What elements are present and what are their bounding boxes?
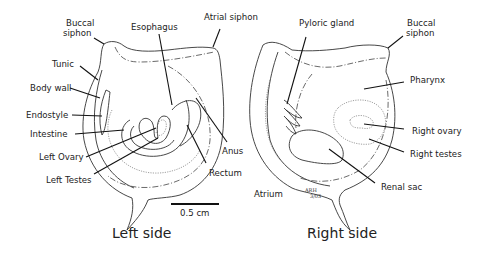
- right-pyloric-gland: [284, 100, 302, 134]
- label-right-testes: Right testes: [410, 149, 462, 159]
- label-atrium: Atrium: [254, 189, 283, 199]
- label-pharynx: Pharynx: [410, 75, 445, 85]
- leader-pharynx: [364, 82, 404, 89]
- leader-right-ovary: [364, 124, 404, 129]
- leader-buccal-siphon-left: [94, 38, 104, 44]
- label-tunic: Tunic: [51, 59, 74, 69]
- caption-left-side: Left side: [112, 225, 171, 241]
- leader-esophagus: [159, 34, 172, 105]
- artist-signature-2: 3/03: [310, 193, 321, 199]
- leader-renal-sac: [329, 149, 375, 183]
- leader-intestine: [75, 130, 124, 134]
- leader-pyloric-gland: [287, 37, 306, 104]
- label-renal-sac: Renal sac: [381, 182, 422, 192]
- label-anus: Anus: [222, 146, 244, 156]
- label-intestine: Intestine: [30, 129, 68, 139]
- label-pyloric-gland: Pyloric gland: [299, 18, 354, 28]
- label-buccal-siphon-left-2: siphon: [63, 28, 91, 38]
- left-tunic-outline: [83, 42, 224, 230]
- leader-body-wall: [70, 88, 100, 98]
- right-testes-dotted: [334, 100, 386, 144]
- left-rectum: [172, 101, 201, 146]
- caption-right-side: Right side: [307, 225, 377, 241]
- label-atrial-siphon: Atrial siphon: [204, 12, 258, 22]
- label-esophagus: Esophagus: [131, 22, 178, 32]
- label-endostyle: Endostyle: [26, 110, 68, 120]
- right-renal-sac: [289, 130, 343, 164]
- label-buccal-siphon-right-1: Buccal: [407, 18, 435, 28]
- leader-atrial-siphon: [213, 29, 220, 47]
- label-left-testes: Left Testes: [46, 175, 92, 185]
- label-right-ovary: Right ovary: [412, 126, 462, 136]
- label-left-ovary: Left Ovary: [39, 152, 84, 162]
- label-buccal-siphon-right-2: siphon: [406, 28, 434, 38]
- leader-tunic: [80, 66, 98, 80]
- leader-right-testes: [369, 139, 404, 152]
- label-buccal-siphon-left-1: Buccal: [66, 18, 94, 28]
- right-organism-drawing: [250, 42, 395, 230]
- left-organism-drawing: [83, 42, 224, 230]
- tunicate-anatomy-diagram: Buccal siphon Esophagus Tunic Body wall …: [0, 0, 485, 253]
- right-tunic-outline: [250, 42, 395, 230]
- left-endostyle: [100, 90, 110, 135]
- scale-bar-label: 0.5 cm: [180, 208, 210, 218]
- right-pharynx-dashed: [296, 74, 312, 128]
- label-body-wall: Body wall: [30, 83, 72, 93]
- leader-buccal-siphon-right: [388, 36, 403, 48]
- right-body-wall: [267, 52, 330, 186]
- leader-endostyle: [72, 115, 102, 116]
- right-ovary-dotted: [350, 116, 373, 129]
- label-rectum: Rectum: [209, 168, 242, 178]
